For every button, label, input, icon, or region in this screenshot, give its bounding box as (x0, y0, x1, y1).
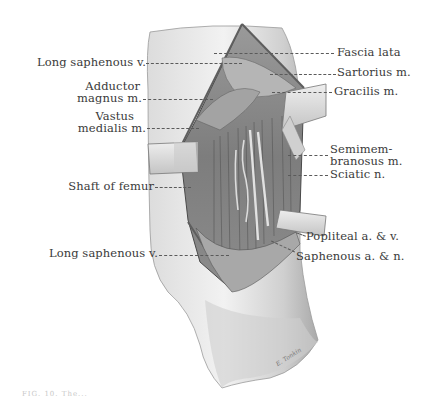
leader-line (147, 128, 199, 129)
label-sartorius: Sartorius m. (337, 66, 411, 78)
label-long-saphenous-vein-upper: Long saphenous v. (14, 56, 146, 68)
leader-line (143, 99, 213, 100)
label-sciatic-nerve: Sciatic n. (330, 168, 385, 180)
leader-line (214, 53, 334, 54)
leader-line (159, 255, 229, 256)
leader-line (270, 74, 336, 75)
label-magnus: magnus m. (30, 92, 142, 104)
retractor-left (148, 142, 198, 174)
label-gracilis: Gracilis m. (334, 85, 398, 97)
leader-line (288, 155, 328, 156)
label-fascia-lata: Fascia lata (337, 46, 401, 58)
anatomical-figure: Long saphenous v. Adductor magnus m. Vas… (0, 0, 443, 400)
label-popliteal-artery-vein: Popliteal a. & v. (306, 230, 399, 242)
leader-line (288, 175, 328, 176)
label-branosus: branosus m. (330, 155, 403, 167)
label-saphenous-artery-nerve: Saphenous a. & n. (296, 250, 404, 262)
label-long-saphenous-vein-lower: Long saphenous v. (10, 247, 158, 259)
figure-caption: FIG. 10. The... (22, 390, 88, 398)
leader-line (272, 92, 332, 93)
label-shaft-of-femur: Shaft of femur (20, 180, 154, 192)
label-medialis: medialis m. (30, 122, 146, 134)
leader-line (155, 187, 191, 188)
leader-line (146, 63, 242, 64)
